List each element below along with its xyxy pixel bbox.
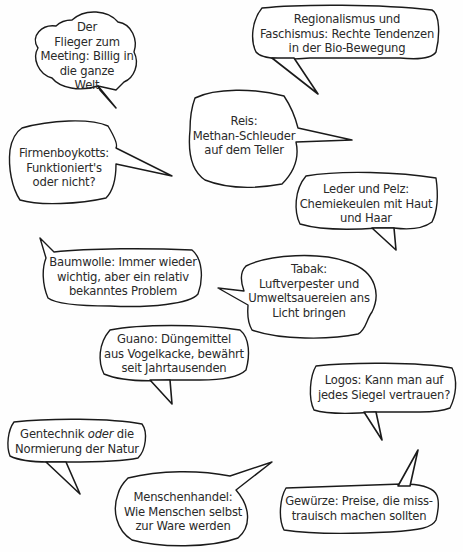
bubble-line: bekanntes Problem <box>44 284 202 299</box>
bubble-line: die ganze <box>40 64 134 79</box>
bubble-line: Flieger zum <box>40 35 134 50</box>
bubble-line: Logos: Kann man auf <box>312 373 456 388</box>
bubble-line: aus Vogelkacke, bewährt <box>100 347 248 362</box>
bubble-line: oder nicht? <box>12 175 116 190</box>
bubble-line: Firmenboykotts: <box>12 146 116 161</box>
bubble-line: Regionalismus und <box>258 12 436 27</box>
bubble-leder-tail <box>372 228 396 250</box>
bubble-text-italic: oder <box>88 427 114 441</box>
bubble-line: Meeting: Billig in <box>40 49 134 64</box>
bubble-line: Faschismus: Rechte Tendenzen <box>258 27 436 42</box>
bubble-regionalismus-tail <box>272 58 318 94</box>
bubble-gentechnik-tail <box>46 462 80 494</box>
bubble-baumwolle: Baumwolle: Immer wieder wichtig, aber ei… <box>44 255 202 299</box>
bubble-line: Luftverpester und <box>244 277 374 292</box>
bubble-line: Leder und Pelz: <box>296 182 436 197</box>
bubble-line: Gentechnik oder die <box>8 427 146 442</box>
bubble-menschenhandel: Menschenhandel: Wie Menschen selbst zur … <box>116 490 250 534</box>
bubble-line: Funktioniert's <box>12 161 116 176</box>
bubble-line: Gewürze: Preise, die miss- <box>280 494 438 509</box>
bubble-guano: Guano: Düngemittel aus Vogelkacke, bewäh… <box>100 332 248 376</box>
bubble-gewuerze-tail <box>398 450 418 486</box>
bubble-line: jedes Siegel vertrauen? <box>312 388 456 403</box>
bubble-line: zur Ware werden <box>116 519 250 534</box>
bubble-line: Der <box>40 20 134 35</box>
bubble-line: trauisch machen sollten <box>280 509 438 524</box>
bubble-logos-tail <box>364 412 382 440</box>
bubble-line: Normierung der Natur <box>8 442 146 457</box>
bubble-line: Licht bringen <box>244 306 374 321</box>
bubble-line: Welt <box>40 78 134 93</box>
bubble-gewuerze: Gewürze: Preise, die miss- trauisch mach… <box>280 494 438 523</box>
bubble-leder: Leder und Pelz: Chemiekeulen mit Haut un… <box>296 182 436 226</box>
bubble-logos: Logos: Kann man auf jedes Siegel vertrau… <box>312 373 456 402</box>
speech-bubble-collage: Der Flieger zum Meeting: Billig in die g… <box>0 0 463 552</box>
bubble-guano-tail <box>150 380 172 404</box>
bubble-line: seit Jahrtausenden <box>100 361 248 376</box>
bubble-line: Guano: Düngemittel <box>100 332 248 347</box>
bubble-reis: Reis: Methan-Schleuder auf dem Teller <box>192 114 296 158</box>
bubble-line: Tabak: <box>244 262 374 277</box>
bubble-text-part: Gentechnik <box>20 427 88 441</box>
bubble-firmenboykotts: Firmenboykotts: Funktioniert's oder nich… <box>12 146 116 190</box>
bubble-tabak: Tabak: Luftverpester und Umweltsauereien… <box>244 262 374 320</box>
bubble-line: Chemiekeulen mit Haut <box>296 197 436 212</box>
bubble-gentechnik: Gentechnik oder die Normierung der Natur <box>8 427 146 456</box>
bubble-flieger: Der Flieger zum Meeting: Billig in die g… <box>40 20 134 93</box>
bubble-line: Umweltsauereien ans <box>244 291 374 306</box>
bubble-line: Methan-Schleuder <box>192 129 296 144</box>
bubble-line: in der Bio-Bewegung <box>258 41 436 56</box>
bubble-text-part: die <box>113 427 134 441</box>
bubble-line: auf dem Teller <box>192 143 296 158</box>
bubble-regionalismus: Regionalismus und Faschismus: Rechte Ten… <box>258 12 436 56</box>
bubble-line: Menschenhandel: <box>116 490 250 505</box>
bubble-line: Baumwolle: Immer wieder <box>44 255 202 270</box>
bubble-line: und Haar <box>296 211 436 226</box>
bubble-line: Wie Menschen selbst <box>116 505 250 520</box>
bubble-line: wichtig, aber ein relativ <box>44 270 202 285</box>
bubble-line: Reis: <box>192 114 296 129</box>
